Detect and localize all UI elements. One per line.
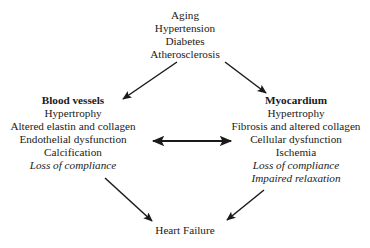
myocardium-heading: Myocardium: [222, 94, 370, 107]
myocardium-item: Fibrosis and altered collagen: [222, 120, 370, 133]
risk-factor-line: Diabetes: [115, 35, 255, 48]
risk-factor-line: Atherosclerosis: [115, 48, 255, 61]
pathophysiology-flow-diagram: Aging Hypertension Diabetes Atherosclero…: [0, 0, 370, 248]
heart-failure-label: Heart Failure: [135, 224, 235, 237]
blood-vessels-item: Hypertrophy: [0, 107, 146, 120]
blood-vessels-heading: Blood vessels: [0, 94, 146, 107]
myocardium-consequence: Loss of compliance: [222, 159, 370, 172]
myocardium-item: Ischemia: [222, 146, 370, 159]
risk-factor-line: Aging: [115, 9, 255, 22]
arrow-myocardium-to-heart-failure: [227, 190, 264, 220]
myocardium-block: Myocardium Hypertrophy Fibrosis and alte…: [222, 94, 370, 185]
heart-failure-block: Heart Failure: [135, 224, 235, 237]
myocardium-consequence: Impaired relaxation: [222, 172, 370, 185]
blood-vessels-item: Calcification: [0, 146, 146, 159]
myocardium-item: Hypertrophy: [222, 107, 370, 120]
arrow-risk-to-myocardium: [225, 62, 266, 93]
blood-vessels-item: Endothelial dysfunction: [0, 133, 146, 146]
blood-vessels-consequence: Loss of compliance: [0, 159, 146, 172]
myocardium-item: Cellular dysfunction: [222, 133, 370, 146]
risk-factor-line: Hypertension: [115, 22, 255, 35]
blood-vessels-item: Altered elastin and collagen: [0, 120, 146, 133]
blood-vessels-block: Blood vessels Hypertrophy Altered elasti…: [0, 94, 146, 172]
risk-factors-block: Aging Hypertension Diabetes Atherosclero…: [115, 9, 255, 61]
arrow-blood-vessels-to-heart-failure: [105, 178, 152, 221]
